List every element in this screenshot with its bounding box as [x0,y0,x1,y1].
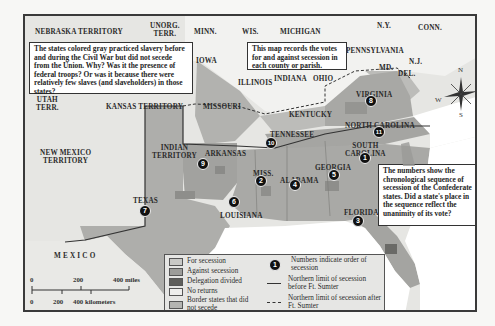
scale-km-0: 0 [30,298,33,305]
region-label: UNORG. TERR. [150,22,180,38]
map-frame: NEBRASKA TERRITORYUNORG. TERR.MINN.WIS.M… [23,14,477,312]
region-label: KANSAS TERRITORY [106,103,183,111]
region-label: CONN. [418,24,442,32]
region-label: MICHIGAN [280,28,321,36]
region-label: NEBRASKA TERRITORY [35,28,123,36]
scale-mi-0: 0 [30,276,33,283]
legend-item-for-secession: For secession [169,258,226,266]
region-label: INDIAN TERRITORY [152,144,197,160]
region-label: TENNESSEE [270,131,314,139]
region-label: PENNSYLVANIA [346,47,404,55]
scale-km-400: 400 kilometers [73,298,115,305]
region-label: LOUISIANA [220,212,263,220]
legend-item-delegation-divided: Delegation divided [169,278,242,286]
legend-item-border-states: Border states that did not secede [169,297,257,312]
numbered-circle-icon: 1 [269,259,281,271]
secession-order-badge: 9 [197,158,209,170]
region-label: ILLINOIS [238,79,272,87]
region-label: IOWA [196,57,217,65]
region-label: MD. [379,64,393,72]
compass-s: S [459,111,463,119]
secession-order-badge: 4 [289,179,301,191]
swatch-for-secession [169,258,183,266]
region-label: UTAH TERR. [36,96,59,112]
note-gray-states: The states colored gray practiced slaver… [29,42,193,94]
secession-order-badge: 5 [328,169,340,181]
swatch-no-returns [169,288,183,296]
legend-item-against-secession: Against secession [169,268,238,276]
scale-mi-200: 200 [73,276,83,283]
swatch-delegation-divided [169,278,183,286]
secession-order-badge: 7 [139,205,151,217]
compass-w: W [435,96,442,104]
region-label: MINN. [194,28,217,36]
scale-km-200: 200 [53,298,63,305]
region-label: N.Y. [377,22,391,30]
legend-symbol-order: 1 Numbers indicate order of secession [265,257,383,272]
secession-order-badge: 10 [265,137,277,149]
legend-item-no-returns: No returns [169,288,218,296]
legend-symbol-solid-line: Northern limit of secession before Ft. S… [265,276,383,291]
region-label: KENTUCKY [289,111,332,119]
region-label: TEXAS [133,197,158,205]
region-label: M E X I C O [54,252,96,260]
swatch-border-states [169,301,183,309]
secession-order-badge: 8 [365,95,377,107]
secession-order-badge: 2 [255,175,267,187]
swatch-against-secession [169,268,183,276]
region-label: OHIO [313,75,333,83]
note-pointer [355,136,415,176]
scale-mi-400: 400 miles [113,276,140,283]
region-label: INDIANA [274,75,307,83]
region-label: DEL. [398,70,415,78]
legend-symbol-dashed-line: Northern limit of secession after Ft. Su… [265,295,383,310]
region-label: N.J. [409,58,422,66]
compass-n: N [458,66,463,74]
region-label: NEW MEXICO TERRITORY [40,149,91,165]
note-county-votes: This map records the votes for and again… [247,42,347,70]
solid-line-icon [267,283,281,284]
compass-icon [438,71,477,117]
region-label: MISSOURI [203,103,241,111]
region-label: ARKANSAS [205,150,246,158]
legend: For secession Against secession Delegati… [164,254,385,312]
secession-order-badge: 3 [352,215,364,227]
region-label: WIS. [242,28,259,36]
dashed-line-icon [267,302,281,303]
secession-order-badge: 6 [228,196,240,208]
compass-rose: N S E W [438,71,477,117]
